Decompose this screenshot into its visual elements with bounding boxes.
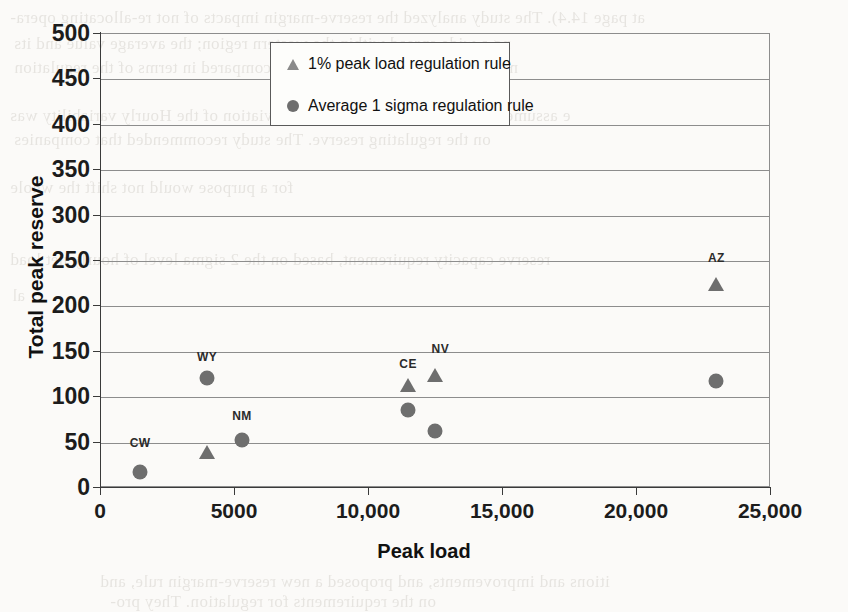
x-tick-label: 15,000 — [470, 500, 534, 521]
y-tick-label: 500 — [36, 22, 90, 45]
point-label-nv: NV — [432, 342, 450, 356]
x-tick-mark — [234, 487, 235, 495]
y-tick-label: 450 — [36, 67, 90, 90]
y-tick-mark — [93, 305, 101, 306]
data-point-triangle-ce — [400, 378, 416, 392]
point-label-az: AZ — [708, 251, 725, 265]
x-axis-title: Peak load — [0, 540, 848, 563]
point-label-cw: CW — [130, 436, 151, 450]
gridline — [100, 170, 769, 171]
y-tick-mark — [93, 260, 101, 261]
y-tick-mark — [93, 169, 101, 170]
data-point-circle-nv — [428, 423, 443, 438]
point-label-ce: CE — [399, 357, 417, 371]
data-point-circle-az — [709, 373, 724, 388]
data-point-circle-wy — [200, 371, 215, 386]
chart-legend: 1% peak load regulation rule Average 1 s… — [270, 42, 510, 126]
legend-label: Average 1 sigma regulation rule — [308, 97, 534, 115]
data-point-circle-ce — [401, 402, 416, 417]
data-point-triangle-nv — [427, 368, 443, 382]
x-tick-label: 20,000 — [604, 500, 668, 521]
x-tick-mark — [636, 487, 637, 495]
x-tick-label: 25,000 — [738, 500, 802, 521]
legend-item-peak-load-rule: 1% peak load regulation rule — [271, 43, 509, 85]
y-tick-mark — [93, 442, 101, 443]
point-label-wy: WY — [197, 350, 217, 364]
y-tick-label: 50 — [36, 431, 90, 454]
data-point-circle-nm — [235, 432, 250, 447]
legend-label: 1% peak load regulation rule — [308, 55, 511, 73]
data-point-circle-cw — [133, 464, 148, 479]
y-tick-mark — [93, 351, 101, 352]
y-tick-mark — [93, 396, 101, 397]
circle-marker-icon — [287, 100, 299, 112]
data-point-triangle-az — [708, 277, 724, 291]
legend-item-sigma-rule: Average 1 sigma regulation rule — [271, 85, 509, 127]
y-axis-title: Total peak reserve — [24, 127, 48, 407]
x-tick-mark — [770, 487, 771, 495]
data-point-triangle-cw — [199, 445, 215, 459]
x-tick-mark — [502, 487, 503, 495]
gridline — [100, 397, 769, 398]
y-tick-mark — [93, 33, 101, 34]
point-label-nm: NM — [232, 409, 252, 423]
gridline — [100, 261, 769, 262]
x-axis-line — [99, 487, 771, 488]
y-tick-label: 0 — [36, 476, 90, 499]
gridline — [100, 306, 769, 307]
y-tick-mark — [93, 124, 101, 125]
x-tick-label: 10,000 — [336, 500, 400, 521]
triangle-marker-icon — [287, 59, 299, 70]
x-tick-label: 0 — [94, 500, 106, 521]
x-tick-label: 5000 — [211, 500, 258, 521]
y-tick-mark — [93, 215, 101, 216]
y-tick-mark — [93, 78, 101, 79]
gridline — [100, 443, 769, 444]
x-tick-mark — [100, 487, 101, 495]
x-tick-mark — [368, 487, 369, 495]
gridline — [100, 216, 769, 217]
